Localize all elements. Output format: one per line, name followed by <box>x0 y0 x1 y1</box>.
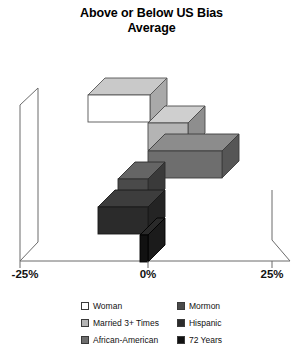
bar-hispanic-front <box>98 207 148 234</box>
chart-title-line-1: Above or Below US Bias <box>0 6 303 21</box>
legend-swatch-married-3plus <box>81 319 89 327</box>
legend-swatch-hispanic <box>177 319 185 327</box>
legend-swatch-72-years <box>177 336 185 344</box>
legend-swatch-woman <box>81 302 89 310</box>
legend-label-hispanic: Hispanic <box>189 318 222 328</box>
page-title: Above or Below US Bias Average <box>0 6 303 36</box>
left-wall-panel <box>20 88 38 261</box>
x-tick-label-min: -25% <box>12 268 39 280</box>
x-axis-labels: -25% 0% 25% <box>0 268 303 288</box>
legend: Woman Married 3+ Times African-American … <box>0 299 303 351</box>
legend-item-hispanic[interactable]: Hispanic <box>177 316 222 330</box>
chart-title-line-2: Average <box>0 21 303 36</box>
legend-label-african-american: African-American <box>93 335 158 345</box>
legend-item-72-years[interactable]: 72 Years <box>177 333 222 347</box>
plot-svg <box>0 40 303 280</box>
legend-item-woman[interactable]: Woman <box>81 299 159 313</box>
legend-item-married-3plus[interactable]: Married 3+ Times <box>81 316 159 330</box>
legend-label-mormon: Mormon <box>189 301 220 311</box>
x-tick-label-max: 25% <box>260 268 283 280</box>
floor-right-edge <box>272 240 290 261</box>
bias-bar-chart: Above or Below US Bias Average <box>0 0 303 357</box>
bar-woman-front <box>88 95 150 122</box>
legend-item-mormon[interactable]: Mormon <box>177 299 222 313</box>
legend-column-right: Mormon Hispanic 72 Years <box>177 299 222 351</box>
legend-column-left: Woman Married 3+ Times African-American <box>81 299 159 351</box>
legend-label-woman: Woman <box>93 301 122 311</box>
legend-item-african-american[interactable]: African-American <box>81 333 159 347</box>
legend-swatch-mormon <box>177 302 185 310</box>
legend-label-72-years: 72 Years <box>189 335 222 345</box>
bar-72-front <box>140 235 148 262</box>
legend-label-married-3plus: Married 3+ Times <box>93 318 159 328</box>
legend-swatch-african-american <box>81 336 89 344</box>
x-tick-label-zero: 0% <box>140 268 157 280</box>
plot-area <box>0 40 303 280</box>
